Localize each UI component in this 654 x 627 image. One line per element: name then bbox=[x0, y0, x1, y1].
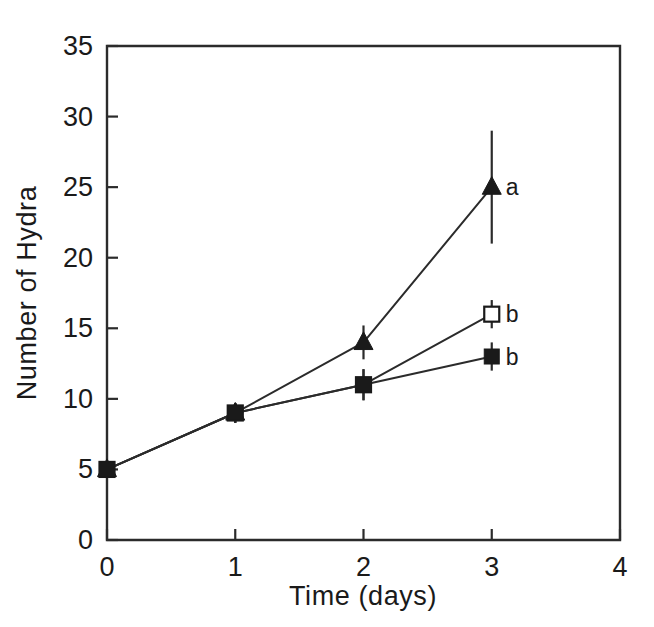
annotation-label-b-16: b bbox=[506, 301, 519, 327]
annotation-label-a-25: a bbox=[506, 174, 519, 200]
y-tick-label-20: 20 bbox=[63, 243, 93, 273]
y-tick-label-30: 30 bbox=[63, 102, 93, 132]
annotation-label-b-13: b bbox=[506, 344, 519, 370]
y-tick-label-0: 0 bbox=[78, 525, 93, 555]
plot-frame bbox=[107, 46, 620, 540]
series-line-filled-triangle bbox=[107, 187, 492, 469]
x-axis-tick-labels: 01234 bbox=[99, 552, 627, 582]
y-tick-label-15: 15 bbox=[63, 313, 93, 343]
hydra-growth-chart-figure: 05101520253035 01234 abb Time (days) Num… bbox=[0, 0, 654, 627]
x-axis-ticks bbox=[107, 529, 620, 540]
data-point-filled-triangle-day3 bbox=[482, 177, 501, 195]
x-tick-label-1: 1 bbox=[228, 552, 243, 582]
x-tick-label-4: 4 bbox=[612, 552, 627, 582]
data-point-filled-square-day0 bbox=[100, 462, 115, 477]
series-line-open-square bbox=[107, 314, 492, 469]
x-tick-label-2: 2 bbox=[356, 552, 371, 582]
series-line-filled-square bbox=[107, 357, 492, 470]
series-lines bbox=[107, 187, 492, 469]
y-axis-tick-labels: 05101520253035 bbox=[63, 31, 93, 555]
y-tick-label-5: 5 bbox=[78, 454, 93, 484]
chart-canvas: 05101520253035 01234 abb Time (days) Num… bbox=[0, 0, 654, 627]
y-tick-label-25: 25 bbox=[63, 172, 93, 202]
x-tick-label-0: 0 bbox=[99, 552, 114, 582]
data-point-filled-square-day3 bbox=[484, 349, 499, 364]
axis-box bbox=[107, 46, 620, 540]
y-axis-title: Number of Hydra bbox=[12, 185, 42, 400]
series-markers bbox=[98, 177, 502, 477]
data-point-open-square-day3 bbox=[484, 307, 499, 322]
x-axis-title: Time (days) bbox=[289, 581, 437, 611]
data-point-filled-square-day2 bbox=[356, 377, 371, 392]
point-annotations: abb bbox=[506, 174, 519, 369]
y-tick-label-35: 35 bbox=[63, 31, 93, 61]
x-tick-label-3: 3 bbox=[484, 552, 499, 582]
data-point-filled-square-day1 bbox=[228, 405, 243, 420]
y-tick-label-10: 10 bbox=[63, 384, 93, 414]
